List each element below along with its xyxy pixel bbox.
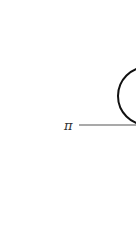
diagram-canvas: π	[0, 0, 136, 245]
sphere-circle	[118, 67, 136, 125]
plane-label: π	[63, 118, 73, 133]
